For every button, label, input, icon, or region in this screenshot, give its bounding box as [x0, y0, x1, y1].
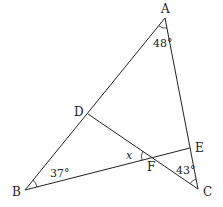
angle-arc-x [141, 151, 143, 160]
point-label-f: F [147, 160, 155, 174]
point-label-e: E [195, 141, 204, 155]
angle-arc-a [159, 26, 167, 28]
point-label-b: B [12, 185, 21, 199]
angle-label-x: x [126, 149, 133, 162]
point-label-a: A [160, 2, 170, 16]
triangle-figure: A B C D E F 48° 37° 43° x [0, 0, 223, 207]
angle-label-c: 43° [176, 164, 196, 177]
geometry-diagram: A B C D E F 48° 37° 43° x [0, 0, 223, 207]
segment-ab [25, 18, 165, 190]
angle-arc-c [190, 179, 196, 184]
point-label-c: C [203, 185, 212, 199]
angle-arc-b [33, 180, 37, 187]
angle-label-a: 48° [153, 37, 173, 50]
angle-label-b: 37° [50, 167, 70, 180]
point-label-d: D [74, 105, 84, 119]
